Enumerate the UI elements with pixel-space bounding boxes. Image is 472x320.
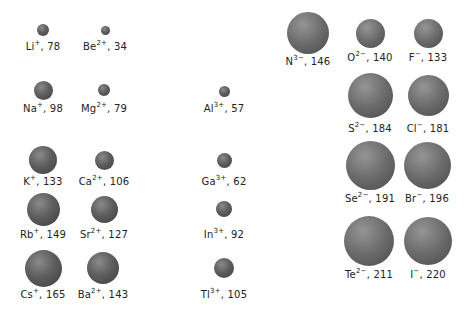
ion-symbol: Be: [83, 41, 96, 52]
ion-radius: 149: [46, 229, 66, 240]
ion-radius: 146: [311, 56, 331, 67]
ion-sphere-cs: [25, 250, 62, 287]
ion-sphere-f: [414, 19, 443, 48]
ion-radius: 62: [233, 176, 246, 187]
ion-charge: +: [33, 287, 39, 295]
ion-radius: 196: [429, 193, 449, 204]
ion-sphere-in: [216, 201, 232, 217]
ion-charge: 2+: [91, 227, 102, 235]
ion-label-na: Na+, 98: [23, 103, 63, 114]
ion-charge: 2+: [96, 39, 107, 47]
ion-charge: 2+: [92, 174, 103, 182]
ion-label-ba: Ba2+, 143: [78, 289, 129, 300]
ion-radius: 165: [46, 289, 66, 300]
ion-symbol: Br: [405, 193, 416, 204]
ion-radius: 140: [373, 52, 393, 63]
ion-radius: 79: [114, 103, 127, 114]
ion-symbol: K: [23, 176, 30, 187]
ion-sphere-br: [404, 142, 451, 189]
ion-sphere-i: [404, 217, 452, 265]
ion-symbol: Ba: [78, 289, 91, 300]
ion-sphere-k: [29, 146, 57, 174]
ion-symbol: Sr: [80, 229, 91, 240]
ion-symbol: S: [348, 123, 355, 134]
ion-charge: +: [34, 227, 40, 235]
ion-charge: −: [413, 267, 419, 275]
ion-label-ca: Ca2+, 106: [79, 176, 130, 187]
ion-label-be: Be2+, 34: [83, 41, 127, 52]
ion-symbol: O: [347, 52, 355, 63]
ion-label-i: I−, 220: [410, 269, 446, 280]
ion-radius: 191: [375, 193, 395, 204]
ion-radius: 105: [228, 289, 248, 300]
ion-sphere-tl: [214, 258, 234, 278]
ion-label-k: K+, 133: [23, 176, 62, 187]
ion-sphere-ba: [87, 252, 119, 284]
ion-charge: 2−: [358, 191, 369, 199]
ion-sphere-o: [356, 19, 385, 48]
ion-symbol: Rb: [20, 229, 34, 240]
ion-sphere-mg: [98, 84, 110, 96]
ion-symbol: Tl: [201, 289, 210, 300]
ion-symbol: Ca: [79, 176, 93, 187]
ion-sphere-te: [344, 216, 394, 266]
ion-charge: 2−: [355, 50, 366, 58]
ion-radius: 220: [426, 269, 446, 280]
ion-charge: +: [30, 174, 36, 182]
ion-charge: 2+: [91, 287, 102, 295]
ion-symbol: Al: [204, 103, 214, 114]
ion-charge: 3−: [293, 54, 304, 62]
ion-symbol: Cl: [407, 123, 417, 134]
ion-charge: 3+: [214, 227, 225, 235]
ion-radius: 57: [231, 103, 244, 114]
ion-sphere-ca: [95, 151, 114, 170]
ion-sphere-rb: [27, 193, 60, 226]
ion-symbol: Ga: [202, 176, 216, 187]
ion-label-n: N3−, 146: [286, 56, 331, 67]
ion-radius: 127: [108, 229, 128, 240]
ion-label-rb: Rb+, 149: [20, 229, 66, 240]
ion-sphere-se: [346, 141, 395, 190]
ion-charge: +: [37, 101, 43, 109]
ion-symbol: N: [286, 56, 294, 67]
ion-symbol: Se: [345, 193, 358, 204]
ion-charge: 3+: [214, 101, 225, 109]
ion-radius: 181: [430, 123, 450, 134]
ion-charge: 3+: [216, 174, 227, 182]
ion-symbol: Cs: [20, 289, 33, 300]
ion-radius: 211: [373, 269, 393, 280]
ion-charge: +: [34, 39, 40, 47]
ion-label-in: In3+, 92: [204, 229, 244, 240]
ion-sphere-ga: [217, 153, 232, 168]
ion-label-al: Al3+, 57: [204, 103, 245, 114]
ion-radius: 98: [50, 103, 63, 114]
ion-symbol: Te: [345, 269, 356, 280]
ion-radius: 143: [109, 289, 129, 300]
ion-radius: 78: [47, 41, 60, 52]
ion-symbol: Mg: [81, 103, 96, 114]
ion-charge: 2−: [356, 267, 367, 275]
ion-sphere-na: [34, 81, 53, 100]
ion-radius: 133: [428, 52, 448, 63]
ion-label-cs: Cs+, 165: [20, 289, 65, 300]
ion-label-f: F−, 133: [409, 52, 447, 63]
ion-sphere-al: [219, 86, 230, 97]
ion-radius: 133: [43, 176, 63, 187]
ion-sphere-li: [37, 24, 49, 36]
ion-label-o: O2−, 140: [347, 52, 392, 63]
ion-label-tl: Tl3+, 105: [201, 289, 247, 300]
ion-charge: 2−: [355, 121, 366, 129]
ion-symbol: Na: [23, 103, 37, 114]
ion-charge: 3+: [210, 287, 221, 295]
ion-label-te: Te2−, 211: [345, 269, 393, 280]
ion-sphere-be: [101, 26, 110, 35]
ion-charge: −: [417, 121, 423, 129]
ion-symbol: Li: [26, 41, 35, 52]
ion-symbol: In: [204, 229, 214, 240]
ion-label-li: Li+, 78: [26, 41, 61, 52]
ion-sphere-s: [348, 73, 393, 118]
ion-label-s: S2−, 184: [348, 123, 392, 134]
ion-label-ga: Ga3+, 62: [202, 176, 247, 187]
ion-charge: −: [415, 50, 421, 58]
ion-charge: 2+: [96, 101, 107, 109]
